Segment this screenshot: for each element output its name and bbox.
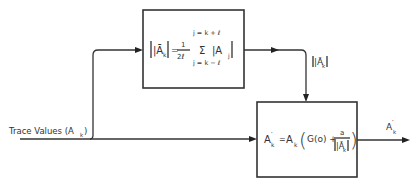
gain-g-term: G(o) + [307,134,337,144]
branch-line [90,50,138,139]
avg-sum-lower: j = k − ℓ [192,59,221,67]
gain-lhs: A [264,134,271,145]
output-label: A ′ k [386,119,397,135]
avg-output-arrowhead [303,94,309,102]
input-label-text: Trace Values (A [8,126,74,136]
gain-rhs-a-sub: k [294,141,298,148]
gain-equals: = [279,135,286,144]
input-label: Trace Values (A k ) [8,126,87,138]
avg-sum-upper: j = k + ℓ [192,29,221,37]
avg-output-line [244,50,306,97]
avg-term-sub: j [227,52,230,60]
avg-frac-den: 2ℓ [177,53,184,61]
output-arrowhead [402,137,410,143]
intermediate-label: |Ā k [313,56,327,69]
gain-close-paren: ) [350,128,358,152]
avg-sum-symbol: Σ [199,45,205,56]
block-diagram: |Ā k = 1 2ℓ j = k + ℓ Σ j = k − ℓ |A j |… [0,0,419,190]
avg-lhs-sub: k [163,51,167,58]
gain-lhs-sub: k [271,141,275,148]
gain-rhs-a: A [286,134,293,145]
avg-lhs: |Ā [153,44,163,57]
branch-arrowhead [135,47,143,53]
avg-term: |A [212,45,222,57]
output-label-sub: k [393,129,397,135]
gain-open-paren: ( [299,128,307,152]
gain-frac-num: a [340,129,344,137]
avg-frac-num: 1 [181,41,185,49]
output-label-sup: ′ [392,119,394,127]
input-arrowhead [249,136,257,142]
intermediate-label-sub: k [322,63,326,69]
avg-output-mid-arrow [271,47,279,53]
input-label-close: ) [84,126,87,136]
